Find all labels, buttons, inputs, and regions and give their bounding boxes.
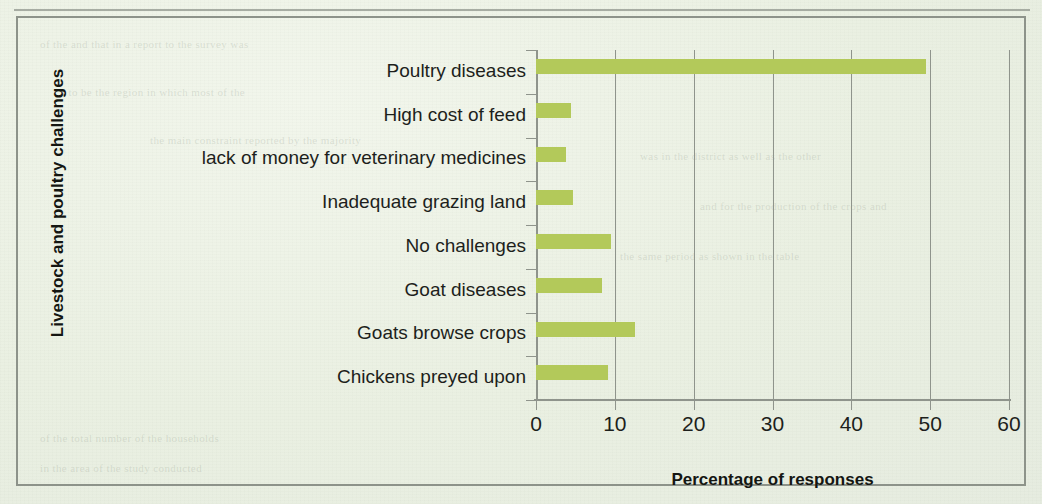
y-axis-tick: [526, 50, 536, 51]
x-axis-tick: [930, 401, 931, 410]
category-label: Poultry diseases: [56, 60, 526, 82]
bar-row: [536, 225, 1009, 269]
bar-row: [536, 138, 1009, 182]
y-axis-tick: [526, 94, 536, 95]
x-axis-tick-label: 50: [900, 412, 960, 436]
gridline: [1009, 50, 1010, 400]
bar: [536, 59, 926, 74]
bar: [536, 322, 635, 337]
x-axis-tick: [1009, 401, 1010, 410]
category-label: Chickens preyed upon: [56, 366, 526, 388]
category-label: Inadequate grazing land: [56, 191, 526, 213]
x-axis-tick-label: 40: [821, 412, 881, 436]
category-label: lack of money for veterinary medicines: [56, 147, 526, 169]
x-axis-tick: [851, 401, 852, 410]
y-axis-tick: [526, 181, 536, 182]
x-axis-tick-label: 60: [979, 412, 1039, 436]
bar-row: [536, 356, 1009, 400]
y-axis-tick: [526, 225, 536, 226]
chart-frame: Livestock and poultry challenges Poultry…: [16, 16, 1026, 486]
bar: [536, 103, 571, 118]
bar-row: [536, 269, 1009, 313]
x-axis-tick: [694, 401, 695, 410]
x-axis-tick: [536, 401, 537, 410]
bar-row: [536, 181, 1009, 225]
plot-area: [536, 50, 1009, 400]
y-axis-tick: [526, 400, 536, 401]
y-axis-tick: [526, 138, 536, 139]
x-axis-tick-label: 10: [585, 412, 645, 436]
x-axis-tick-label: 30: [743, 412, 803, 436]
y-axis-tick: [526, 356, 536, 357]
x-axis-tick: [773, 401, 774, 410]
scanned-page: of the and that in a report to the surve…: [0, 0, 1042, 504]
category-label: Goat diseases: [56, 279, 526, 301]
bar: [536, 234, 611, 249]
x-axis-title: Percentage of responses: [534, 470, 1011, 490]
x-axis-tick-label: 20: [664, 412, 724, 436]
y-axis-tick: [526, 313, 536, 314]
y-axis-tick: [526, 269, 536, 270]
bar: [536, 365, 608, 380]
bar: [536, 278, 602, 293]
x-axis-tick-label: 0: [506, 412, 566, 436]
category-label: High cost of feed: [56, 104, 526, 126]
bar: [536, 190, 573, 205]
bar-row: [536, 50, 1009, 94]
x-axis-tick: [615, 401, 616, 410]
bar-row: [536, 313, 1009, 357]
bar: [536, 147, 566, 162]
category-label: Goats browse crops: [56, 322, 526, 344]
page-top-rule: [14, 9, 1030, 11]
bar-row: [536, 94, 1009, 138]
category-label: No challenges: [56, 235, 526, 257]
